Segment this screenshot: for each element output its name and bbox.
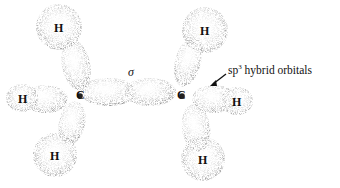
label-h-top-right: H bbox=[200, 25, 209, 37]
sigma-lobe-right bbox=[124, 78, 176, 106]
label-h-bottom-right: H bbox=[198, 154, 207, 166]
annotation-prefix: sp bbox=[228, 64, 238, 76]
annotation-suffix: hybrid orbitals bbox=[242, 64, 312, 76]
label-carbon-left: C bbox=[76, 89, 85, 101]
label-h-top-left: H bbox=[54, 22, 63, 34]
label-h-right: H bbox=[232, 96, 241, 108]
label-sigma-bond: σ bbox=[128, 66, 134, 78]
label-carbon-right: C bbox=[177, 89, 186, 101]
label-h-left: H bbox=[18, 93, 27, 105]
label-h-bottom-left: H bbox=[50, 150, 59, 162]
annotation-sp3-hybrid-orbitals: sp3 hybrid orbitals bbox=[228, 64, 312, 76]
annotation-arrow-head bbox=[210, 80, 217, 86]
